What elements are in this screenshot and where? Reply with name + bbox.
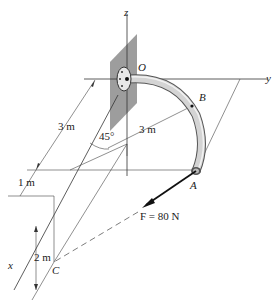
x-axis-label: x: [8, 260, 13, 271]
arrowhead: [36, 163, 40, 170]
bolt: [119, 78, 121, 80]
origin-point: [125, 77, 129, 81]
force-line-of-action: [54, 212, 138, 262]
point-B: [190, 104, 193, 107]
point-A-label: A: [190, 180, 197, 191]
dim-vertical-3m: 3 m: [58, 121, 75, 132]
y-axis-label: y: [266, 73, 271, 84]
dim-radius-3m: 3 m: [139, 124, 156, 135]
force-label: F = 80 N: [140, 211, 180, 222]
projection-line: [54, 144, 127, 262]
dim-height-2m: 2 m: [34, 252, 51, 263]
z-axis-label: z: [124, 7, 128, 18]
angle-arc-45: [90, 143, 109, 149]
dim-offset-1m: 1 m: [18, 177, 35, 188]
arrowhead: [34, 226, 38, 232]
force-vector: [146, 171, 196, 205]
point-C-label: C: [52, 265, 59, 276]
projection-line: [70, 144, 127, 170]
projection-line: [32, 262, 54, 300]
point-O-label: O: [138, 62, 146, 73]
bolt: [121, 71, 123, 73]
arrowhead: [91, 80, 95, 87]
arrowhead: [34, 284, 38, 290]
point-B-label: B: [199, 92, 206, 103]
bolt: [121, 85, 123, 87]
dim-angle-45: 45°: [99, 131, 114, 142]
